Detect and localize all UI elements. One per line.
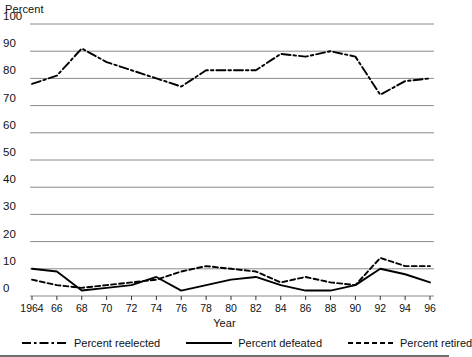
x-axis-title: Year: [0, 318, 449, 329]
x-tick-label: 66: [51, 303, 63, 314]
legend-swatch-solid-icon: [186, 338, 232, 348]
legend-item: Percent defeated: [186, 337, 322, 349]
legend-item: Percent retired: [348, 337, 472, 349]
x-tick-label: 84: [275, 303, 287, 314]
x-tick-label: 74: [151, 303, 163, 314]
legend-item: Percent reelected: [22, 337, 160, 349]
chart-legend: Percent reelectedPercent defeatedPercent…: [0, 332, 449, 354]
legend-label: Percent defeated: [238, 337, 322, 349]
x-tick-label: 90: [350, 303, 362, 314]
x-tick-label: 96: [424, 303, 436, 314]
series-lines: [32, 48, 430, 290]
x-tick-label: 68: [76, 303, 88, 314]
x-tick-label: 70: [101, 303, 113, 314]
gridlines: [30, 24, 434, 296]
series-line-2: [32, 258, 430, 288]
x-axis-ticks: [32, 296, 430, 300]
x-tick-label: 80: [225, 303, 237, 314]
plot-area: [0, 0, 449, 300]
x-tick-label: 78: [200, 303, 212, 314]
x-tick-label: 82: [250, 303, 262, 314]
x-tick-label: 72: [126, 303, 138, 314]
legend-swatch-dashed-icon: [348, 338, 394, 348]
x-tick-label: 86: [300, 303, 312, 314]
x-tick-label: 92: [374, 303, 386, 314]
legend-label: Percent retired: [400, 337, 472, 349]
x-tick-label: 94: [399, 303, 411, 314]
series-line-0: [32, 48, 430, 94]
x-tick-label: 1964: [20, 303, 43, 314]
x-tick-label: 76: [175, 303, 187, 314]
legend-label: Percent reelected: [74, 337, 160, 349]
x-tick-label: 88: [325, 303, 337, 314]
legend-swatch-dash-dot-icon: [22, 338, 68, 348]
